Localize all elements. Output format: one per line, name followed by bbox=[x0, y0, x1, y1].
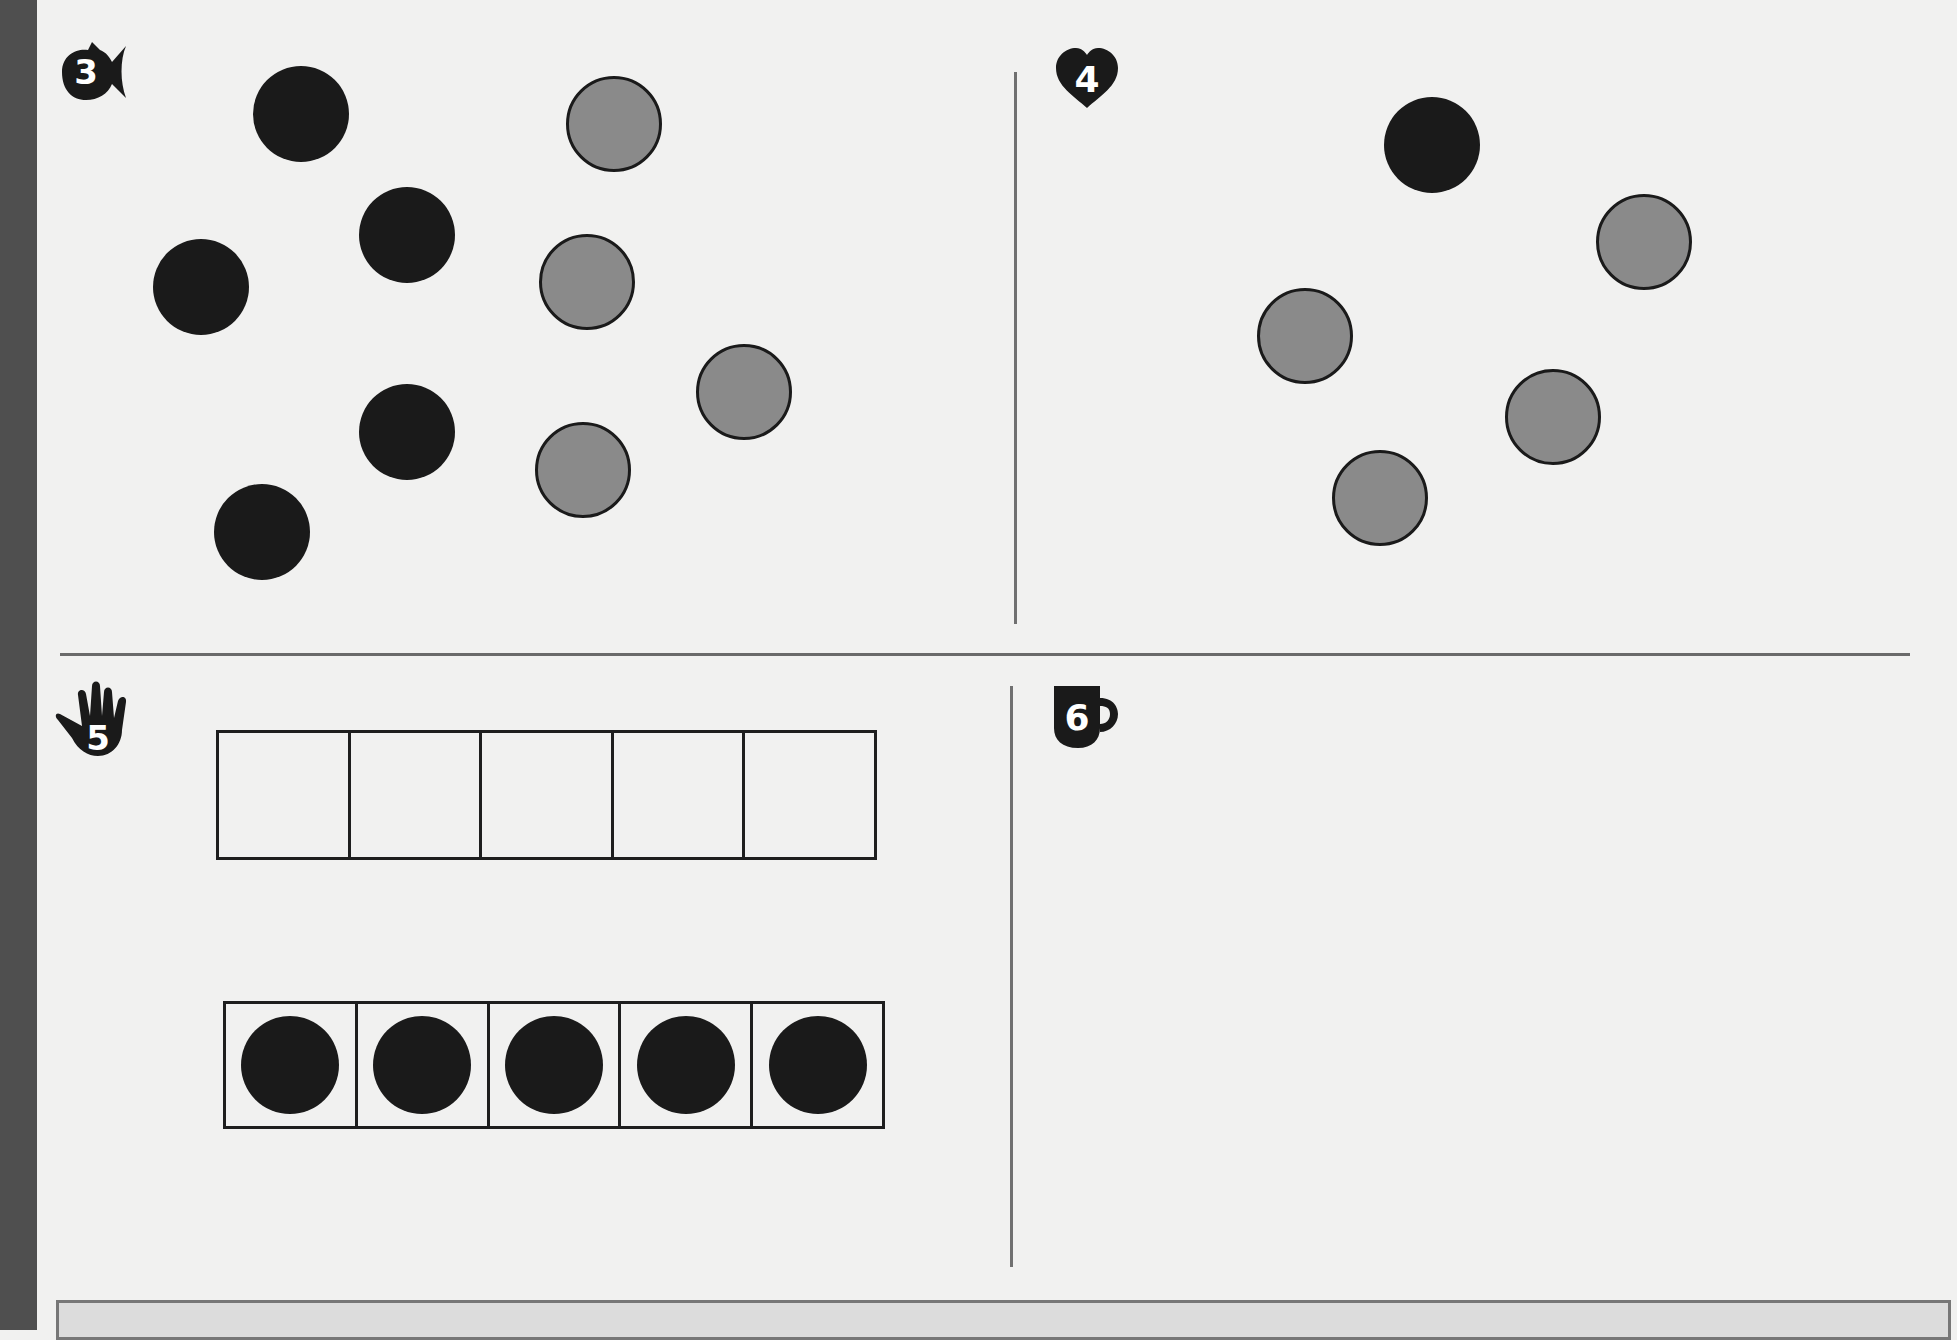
grey-counter bbox=[696, 344, 792, 440]
black-counter bbox=[1384, 97, 1480, 193]
frame-cell[interactable] bbox=[611, 733, 743, 857]
five-frame-filled bbox=[223, 1001, 885, 1129]
black-counter bbox=[214, 484, 310, 580]
black-counter bbox=[359, 384, 455, 480]
vertical-divider-bottom bbox=[1010, 686, 1013, 1267]
frame-cell[interactable] bbox=[219, 733, 348, 857]
black-counter bbox=[241, 1016, 339, 1114]
black-counter bbox=[505, 1016, 603, 1114]
problem-number: 3 bbox=[74, 52, 98, 92]
black-counter bbox=[153, 239, 249, 335]
grey-counter bbox=[535, 422, 631, 518]
grey-counter bbox=[1332, 450, 1428, 546]
mug-icon: 6 bbox=[1052, 684, 1122, 750]
frame-cell[interactable] bbox=[348, 733, 480, 857]
five-frame-empty bbox=[216, 730, 877, 860]
problem-number: 4 bbox=[1074, 59, 1099, 100]
black-counter bbox=[637, 1016, 735, 1114]
frame-cell bbox=[487, 1004, 619, 1126]
bottom-answer-box[interactable] bbox=[56, 1300, 1951, 1340]
grey-counter bbox=[1505, 369, 1601, 465]
fish-icon: 3 bbox=[58, 40, 130, 106]
frame-cell bbox=[750, 1004, 882, 1126]
black-counter bbox=[253, 66, 349, 162]
black-counter bbox=[373, 1016, 471, 1114]
hand-icon: 5 bbox=[50, 680, 130, 760]
grey-counter bbox=[1596, 194, 1692, 290]
grey-counter bbox=[539, 234, 635, 330]
vertical-divider-top bbox=[1014, 72, 1017, 624]
problem-number: 5 bbox=[86, 718, 110, 758]
answer-area[interactable] bbox=[1030, 760, 1910, 1260]
frame-cell[interactable] bbox=[742, 733, 874, 857]
frame-cell bbox=[226, 1004, 355, 1126]
problem-number: 6 bbox=[1064, 697, 1089, 738]
page-edge-strip bbox=[0, 0, 37, 1330]
black-counter bbox=[359, 187, 455, 283]
frame-cell[interactable] bbox=[479, 733, 611, 857]
horizontal-divider bbox=[60, 653, 1910, 656]
frame-cell bbox=[618, 1004, 750, 1126]
frame-cell bbox=[355, 1004, 487, 1126]
heart-icon: 4 bbox=[1054, 46, 1120, 112]
black-counter bbox=[769, 1016, 867, 1114]
grey-counter bbox=[566, 76, 662, 172]
grey-counter bbox=[1257, 288, 1353, 384]
